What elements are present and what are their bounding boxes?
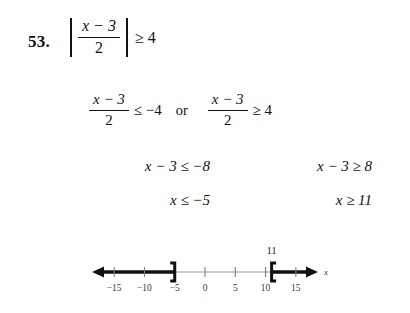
left-branch-relation-and-value: ≤ −4 [134, 102, 162, 119]
endpoint-label-11: 11 [267, 245, 277, 256]
arrowhead-left [92, 267, 104, 278]
fraction-denominator: 2 [78, 39, 120, 57]
number-line-svg: −15−10−5051015 11 x [88, 240, 338, 306]
fraction-numerator: x − 3 [78, 18, 120, 36]
fraction-right-branch: x − 3 2 [208, 92, 248, 129]
fraction-denominator: 2 [89, 112, 129, 129]
tick-label: −10 [137, 283, 152, 293]
equation-line-statement: x − 3 2 ≥ 4 [68, 18, 156, 57]
multiplied-right-branch: x − 3 ≥ 8 [210, 158, 390, 175]
fraction-bar [208, 110, 248, 112]
tick-label: 5 [233, 283, 238, 293]
worked-solution-figure: 53. x − 3 2 ≥ 4 x − 3 2 ≤ −4 or x − 3 2 … [0, 0, 410, 313]
absolute-value-bar-left [70, 18, 72, 57]
multiplied-left-branch: x − 3 ≤ −8 [60, 158, 210, 175]
tick-label: −5 [170, 283, 180, 293]
tick-label-group: −15−10−5051015 [107, 283, 301, 293]
equation-line-multiplied: x − 3 ≤ −8 x − 3 ≥ 8 [60, 158, 390, 175]
fraction-numerator: x − 3 [208, 92, 248, 109]
equation-line-or-branches: x − 3 2 ≤ −4 or x − 3 2 ≥ 4 [88, 92, 272, 129]
tick-label: 15 [291, 283, 301, 293]
equation-line-solution: x ≤ −5 x ≥ 11 [60, 192, 390, 209]
right-branch-relation-and-value: ≥ 4 [253, 102, 272, 119]
tick-label: −15 [107, 283, 122, 293]
tick-label: 10 [261, 283, 271, 293]
solution-left-branch: x ≤ −5 [60, 192, 210, 209]
fraction-bar [78, 37, 120, 39]
fraction-statement: x − 3 2 [78, 18, 120, 57]
problem-number: 53. [28, 32, 50, 52]
statement-relation-and-value: ≥ 4 [135, 29, 156, 47]
conjunction-or: or [176, 102, 188, 119]
number-line-graph: −15−10−5051015 11 x [88, 240, 338, 306]
tick-label: 0 [203, 283, 208, 293]
absolute-value-bar-right [126, 18, 128, 57]
fraction-left-branch: x − 3 2 [89, 92, 129, 129]
arrowhead-right [306, 267, 318, 278]
fraction-denominator: 2 [208, 112, 248, 129]
fraction-numerator: x − 3 [89, 92, 129, 109]
axis-variable-label: x [323, 267, 328, 277]
absolute-value-group: x − 3 2 [68, 18, 130, 57]
fraction-bar [89, 110, 129, 112]
solution-right-branch: x ≥ 11 [210, 192, 390, 209]
